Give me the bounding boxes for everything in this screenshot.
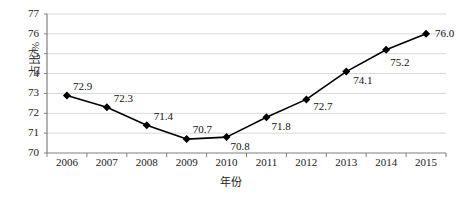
data-point-label: 70.7 xyxy=(193,124,212,135)
data-point-label: 76.0 xyxy=(435,28,454,39)
y-tick-label: 77 xyxy=(17,8,39,19)
data-point-label: 72.3 xyxy=(114,93,133,104)
data-point-label: 72.7 xyxy=(313,101,332,112)
gridlines xyxy=(47,14,446,133)
data-point-marker xyxy=(183,135,191,143)
y-tick-label: 76 xyxy=(17,28,39,39)
data-point-label: 71.4 xyxy=(154,111,173,122)
y-tick-label: 71 xyxy=(17,127,39,138)
x-axis-title: 年份 xyxy=(0,173,461,189)
data-point-marker xyxy=(143,121,151,129)
chart-canvas xyxy=(0,0,461,200)
y-tick-label: 73 xyxy=(17,87,39,98)
line-chart: 占比/% 年份 7071727374757677 200620072008200… xyxy=(0,0,461,200)
data-point-label: 74.1 xyxy=(353,75,372,86)
data-point-marker xyxy=(262,113,270,121)
x-tick-label: 2015 xyxy=(403,157,449,168)
y-tick-label: 74 xyxy=(17,68,39,79)
data-point-label: 70.8 xyxy=(231,141,250,152)
data-point-marker xyxy=(63,91,71,99)
y-tick-label: 75 xyxy=(17,48,39,59)
data-point-marker xyxy=(422,30,430,38)
data-point-label: 75.2 xyxy=(390,57,409,68)
axis-lines xyxy=(47,14,446,153)
data-point-label: 72.9 xyxy=(73,81,92,92)
y-tick-label: 72 xyxy=(17,107,39,118)
data-point-marker xyxy=(223,133,231,141)
y-tick-label: 70 xyxy=(17,147,39,158)
data-point-marker xyxy=(103,103,111,111)
axis-tick-marks xyxy=(44,14,446,157)
data-point-markers xyxy=(63,30,430,143)
data-point-label: 71.8 xyxy=(271,121,290,132)
series-line xyxy=(67,34,426,139)
data-point-marker xyxy=(382,46,390,54)
